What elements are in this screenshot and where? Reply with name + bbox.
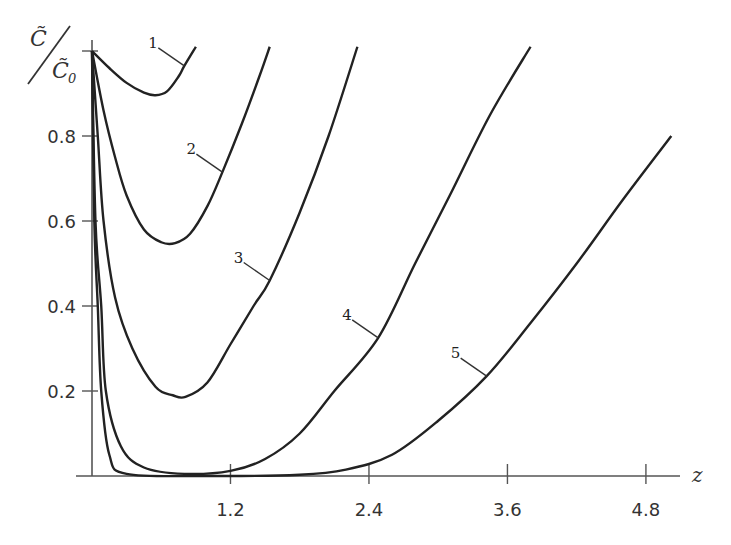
curve-1 (92, 47, 196, 95)
y-label-numerator: C̃ (30, 26, 47, 51)
label-leader (244, 263, 270, 281)
curve-3 (92, 47, 357, 398)
curve-label-3: 3 (234, 249, 244, 267)
y-tick-label: 0.8 (47, 126, 76, 147)
x-tick-label: 4.8 (632, 499, 661, 520)
y-label-subscript: 0 (68, 71, 76, 86)
axes (76, 40, 680, 476)
y-ticks: 0.20.40.60.8 (47, 51, 98, 402)
label-leader (158, 48, 184, 66)
x-tick-label: 1.2 (216, 499, 245, 520)
x-tick-label: 3.6 (493, 499, 522, 520)
x-tick-label: 2.4 (355, 499, 384, 520)
x-axis-label: z (691, 463, 703, 487)
y-tick-label: 0.6 (47, 211, 76, 232)
label-leader (461, 358, 487, 376)
curve-label-1: 1 (148, 34, 158, 52)
y-axis-label: C̃ C̃ 0 (28, 26, 76, 86)
curve-label-4: 4 (342, 306, 352, 324)
curves (92, 47, 671, 476)
curve-label-2: 2 (186, 140, 196, 158)
y-tick-label: 0.4 (47, 296, 76, 317)
chart: 1.22.43.64.8 0.20.40.60.8 12345 z C̃ C̃ … (0, 0, 731, 545)
y-tick-label: 0.2 (47, 381, 76, 402)
curve-5 (92, 51, 671, 476)
label-leader (196, 154, 222, 172)
curve-label-5: 5 (451, 344, 461, 362)
curve-4 (92, 47, 531, 474)
label-leader (352, 320, 378, 338)
curve-labels: 12345 (148, 34, 486, 376)
x-ticks: 1.22.43.64.8 (216, 464, 660, 520)
y-label-denominator: C̃ (52, 58, 69, 83)
